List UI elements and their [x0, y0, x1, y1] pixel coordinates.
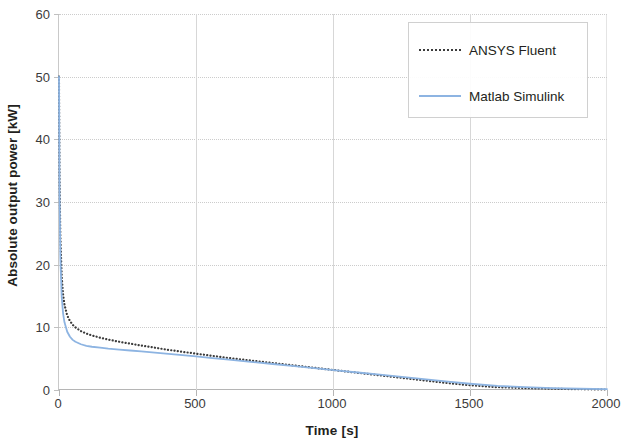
legend-swatch-dotted-icon: [419, 44, 461, 56]
x-tick-label: 500: [165, 396, 225, 411]
y-tick-label: 40: [0, 132, 50, 147]
x-tick-label: 0: [28, 396, 88, 411]
y-tick-label: 20: [0, 257, 50, 272]
legend-label: Matlab Simulink: [469, 89, 564, 104]
legend-swatch-solid-icon: [419, 90, 461, 102]
y-tick-label: 10: [0, 320, 50, 335]
y-tick-label: 60: [0, 7, 50, 22]
series-line-ansys-fluent: [59, 77, 607, 390]
legend-item-matlab-simulink: Matlab Simulink: [419, 87, 564, 105]
y-tick-label: 50: [0, 69, 50, 84]
x-tick-label: 1500: [439, 396, 499, 411]
x-tick-label: 2000: [576, 396, 625, 411]
legend-label: ANSYS Fluent: [469, 43, 556, 58]
series-line-matlab-simulink: [59, 77, 607, 389]
x-tick-label: 1000: [302, 396, 362, 411]
x-axis-title: Time [s]: [58, 423, 606, 438]
legend-item-ansys-fluent: ANSYS Fluent: [419, 41, 556, 59]
legend: ANSYS Fluent Matlab Simulink: [408, 22, 588, 118]
y-tick-label: 30: [0, 195, 50, 210]
